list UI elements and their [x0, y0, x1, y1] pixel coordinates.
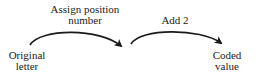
- arrow-assign-position: [30, 32, 121, 46]
- edge-label-assign-position: Assign position number: [40, 4, 130, 26]
- edge-label-add-2: Add 2: [145, 15, 205, 26]
- node-coded-value: Coded value: [205, 50, 249, 72]
- edge-label-line: Add 2: [145, 15, 205, 26]
- edge-label-line: number: [40, 15, 130, 26]
- node-label-line: value: [205, 61, 249, 72]
- arrow-add-2: [131, 32, 221, 44]
- node-original-letter: Original letter: [2, 50, 52, 72]
- node-label-line: letter: [2, 61, 52, 72]
